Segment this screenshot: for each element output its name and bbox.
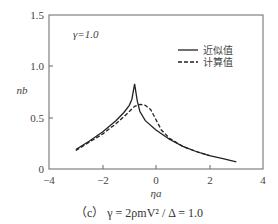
xtick: 2	[207, 174, 213, 186]
ytick: 1.5	[30, 9, 44, 21]
solid-series-line	[76, 84, 237, 162]
xtick: 0	[153, 174, 159, 186]
ytick: 0.5	[30, 112, 44, 124]
legend: 近似值 计算值	[178, 44, 233, 68]
figure-caption: （c） γ = 2ρmV² / Δ = 1.0	[0, 203, 278, 221]
xtick: 4	[260, 174, 266, 186]
x-axis-label: ηa	[151, 187, 162, 199]
series-lines	[76, 84, 237, 162]
y-axis-label: nb	[17, 84, 29, 96]
legend-solid-label: 近似值	[203, 44, 233, 56]
ytick: 1.0	[30, 60, 44, 72]
legend-dashed-label: 计算值	[203, 56, 233, 68]
chart: 1.5 1.0 0.5 0 −4 −2 0 2 4 ηa nb γ=1.0 近似…	[0, 0, 278, 224]
y-axis	[49, 66, 210, 169]
gamma-annotation: γ=1.0	[73, 28, 99, 40]
xtick: −4	[43, 174, 55, 186]
xtick: −2	[97, 174, 109, 186]
dashed-series-line	[76, 104, 210, 155]
